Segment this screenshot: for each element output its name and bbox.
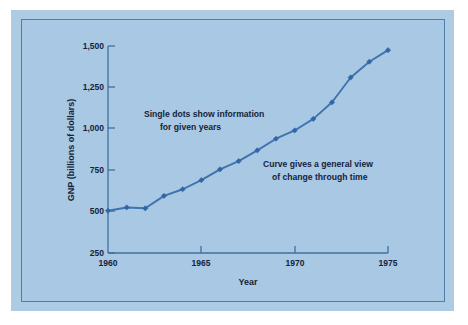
y-axis-title: GNP (billions of dollars) [66, 99, 76, 201]
annotation-curve-line1: Curve gives a general view [263, 159, 373, 169]
x-tick-label-1960: 1960 [99, 258, 118, 268]
annotation-dots-line1: Single dots show information [144, 109, 264, 119]
figure-container: 1,500 1,250 1,000 750 500 250 1960 1965 … [0, 0, 468, 325]
y-tick-label-1250: 1,250 [83, 82, 105, 92]
x-tick-label-1970: 1970 [286, 258, 305, 268]
y-tick-label-500: 500 [90, 206, 104, 216]
x-tick-label-1965: 1965 [192, 258, 211, 268]
y-tick-label-1000: 1,000 [83, 123, 105, 133]
data-point [124, 205, 129, 210]
gnp-series-line [108, 50, 388, 211]
annotation-dots-line2: for given years [160, 122, 221, 132]
gnp-line-chart: 1,500 1,250 1,000 750 500 250 1960 1965 … [0, 0, 468, 325]
gnp-series-markers [105, 48, 390, 214]
y-tick-label-750: 750 [90, 165, 104, 175]
data-point [105, 208, 110, 213]
y-tick-label-250: 250 [90, 248, 104, 258]
x-tick-label-1975: 1975 [379, 258, 398, 268]
x-axis-title: Year [238, 277, 258, 287]
y-tick-label-1500: 1,500 [83, 41, 105, 51]
annotation-curve-line2: of change through time [272, 172, 368, 182]
